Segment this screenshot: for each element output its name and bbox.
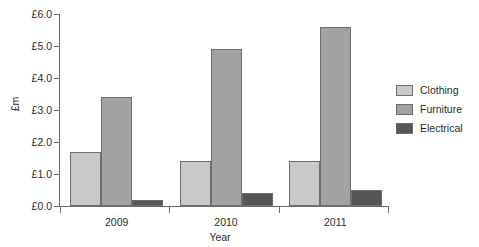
bar [132,200,163,206]
legend-item: Electrical [396,120,463,136]
x-tick-label: 2010 [196,216,256,228]
y-tick-label: £1.0 [6,169,52,180]
y-tick-label: £6.0 [6,9,52,20]
bar [351,190,382,206]
bar-chart: £m £0.0£1.0£2.0£3.0£4.0£5.0£6.0 20092010… [0,0,479,247]
x-tick-mark [169,207,170,213]
x-tick-mark [279,207,280,213]
bar [211,49,242,206]
x-tick-label: 2011 [305,216,365,228]
legend-swatch-icon [396,85,413,96]
y-tick-label: £5.0 [6,41,52,52]
y-tick-label: £0.0 [6,201,52,212]
legend-label: Electrical [420,122,463,134]
bar [289,161,320,206]
x-tick-mark [60,207,61,213]
bar [101,97,132,206]
plot-area [60,14,388,206]
x-axis-title: Year [0,231,440,243]
y-tick-label: £4.0 [6,73,52,84]
legend-label: Clothing [420,84,459,96]
legend-swatch-icon [396,104,413,115]
bar [320,27,351,206]
x-tick-mark [388,207,389,213]
bar [242,193,273,206]
legend-item: Clothing [396,82,463,98]
legend-swatch-icon [396,123,413,134]
legend-label: Furniture [420,103,462,115]
y-tick-label: £3.0 [6,105,52,116]
y-tick-label: £2.0 [6,137,52,148]
legend-item: Furniture [396,101,463,117]
chart-legend: ClothingFurnitureElectrical [396,82,463,139]
bar [70,152,101,206]
x-tick-label: 2009 [87,216,147,228]
x-axis-line [59,206,389,207]
bar [180,161,211,206]
